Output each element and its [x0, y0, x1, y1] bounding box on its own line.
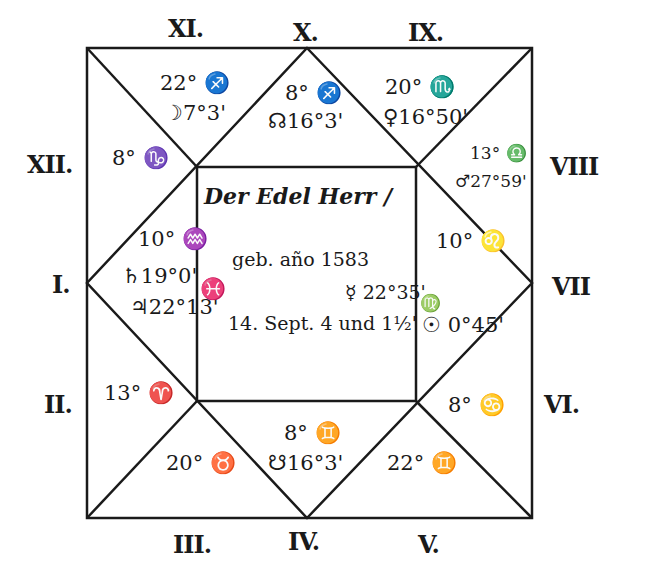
house-8-mars: ♂27°59'	[455, 168, 527, 194]
house-label-1: I.	[52, 270, 70, 299]
house-1-side-sign: ♓	[200, 276, 226, 302]
house-1-cusp: 10° ♒	[138, 226, 208, 252]
center-birth-year: geb. año 1583	[232, 248, 369, 270]
house-label-12: XII.	[27, 150, 72, 179]
house-6-cusp: 8° ♋	[448, 392, 505, 418]
house-11-moon: ☽7°3'	[164, 100, 226, 126]
house-label-2: II.	[44, 390, 72, 419]
house-7-sun: ☉ 0°45'	[422, 312, 504, 338]
house-2-cusp: 13° ♈	[104, 380, 174, 406]
center-birth-date: 14. Sept. 4 und 1½'	[228, 312, 417, 334]
house-label-7: VII	[552, 272, 590, 301]
house-5-cusp: 22° ♊	[387, 450, 457, 476]
house-4-cusp: 8° ♊	[284, 420, 341, 446]
house-10-cusp: 8° ♐	[285, 80, 342, 106]
house-label-9: IX.	[408, 18, 443, 47]
house-3-cusp: 20° ♉	[166, 450, 236, 476]
house-label-10: X.	[293, 18, 318, 47]
house-label-6: VI.	[544, 390, 579, 419]
house-1-saturn: ♄19°0'	[122, 263, 197, 289]
house-8-cusp: 13° ♎	[470, 140, 527, 166]
center-title: Der Edel Herr /	[204, 183, 392, 209]
house-label-5: V.	[418, 530, 439, 559]
house-4-south-node: ☋16°3'	[268, 450, 343, 476]
house-7-cusp: 10° ♌	[436, 228, 506, 254]
house-12-cusp: 8° ♑	[112, 145, 169, 171]
house-label-8: VIII	[550, 152, 598, 181]
house-label-3: III.	[173, 530, 211, 559]
house-9-venus: ♀16°50'	[383, 104, 468, 130]
house-9-cusp: 20° ♏	[385, 74, 455, 100]
house-label-4: IV.	[288, 527, 319, 556]
house-10-north-node: ☊16°3'	[268, 108, 343, 134]
house-11-cusp: 22° ♐	[160, 70, 230, 96]
house-label-11: XI.	[168, 14, 203, 43]
center-mercury: ☿ 22°35'	[345, 281, 426, 303]
